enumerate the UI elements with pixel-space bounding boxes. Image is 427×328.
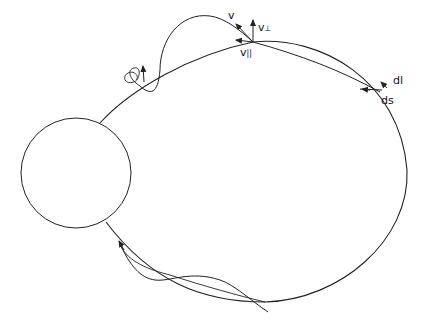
- dl-arrow: [381, 82, 387, 88]
- planet-circle: [21, 118, 131, 228]
- dl-label: dl: [393, 75, 403, 86]
- field-line-diagram: [0, 0, 427, 328]
- v-arrow: [236, 24, 253, 42]
- v-perp-label: v⊥: [258, 22, 271, 33]
- magnetic-field-line: [100, 41, 407, 302]
- v-label: v: [228, 10, 235, 21]
- helix-arrow: [143, 66, 144, 82]
- v-perp-subscript: ⊥: [265, 24, 272, 33]
- ds-label: ds: [381, 95, 394, 106]
- v-par-label: v||: [240, 47, 252, 58]
- particle-trajectory-lower: [121, 246, 268, 312]
- v-par-subscript: ||: [247, 49, 252, 58]
- gyration-helix: [125, 68, 140, 86]
